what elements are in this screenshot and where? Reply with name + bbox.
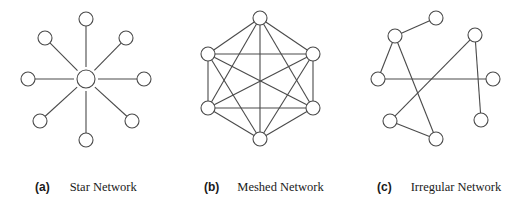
network-node <box>306 101 320 115</box>
network-node <box>383 114 397 128</box>
network-node <box>125 114 139 128</box>
network-node <box>137 72 151 86</box>
caption-text-star: Star Network <box>70 177 137 197</box>
network-edge <box>214 112 254 136</box>
caption-text-irregular: Irregular Network <box>411 177 502 197</box>
network-node <box>486 72 500 86</box>
network-edge <box>397 124 430 137</box>
network-edge <box>381 43 393 73</box>
network-node <box>201 101 215 115</box>
hub-node <box>77 70 95 88</box>
network-edge <box>50 43 78 71</box>
network-edge <box>395 40 470 116</box>
network-node <box>253 132 267 146</box>
network-node <box>79 133 93 147</box>
network-node <box>468 28 482 42</box>
caption-meshed-network: (b) Meshed Network <box>204 176 324 196</box>
network-edge <box>214 22 254 50</box>
irregular-network-graph <box>371 11 500 146</box>
caption-tag-b: (b) <box>204 177 219 197</box>
network-edge <box>95 87 127 116</box>
caption-irregular-network: (c) Irregular Network <box>377 176 501 196</box>
network-edge <box>94 43 121 70</box>
network-node <box>119 31 133 45</box>
network-node <box>388 29 402 43</box>
network-node <box>371 72 385 86</box>
network-node <box>429 11 443 25</box>
network-edge <box>401 21 429 33</box>
caption-tag-a: (a) <box>35 177 50 197</box>
caption-star-network: (a) Star Network <box>35 176 137 196</box>
network-node <box>33 114 47 128</box>
network-node <box>429 132 443 146</box>
caption-tag-c: (c) <box>377 177 392 197</box>
network-edge <box>266 112 307 136</box>
network-edge <box>266 22 307 50</box>
network-node <box>38 31 52 45</box>
caption-text-meshed: Meshed Network <box>237 177 323 197</box>
network-node <box>79 12 93 26</box>
star-network-graph <box>21 12 151 147</box>
network-node <box>201 47 215 61</box>
network-edge <box>45 87 77 116</box>
meshed-network-graph <box>201 11 320 146</box>
network-node <box>474 113 488 127</box>
network-node <box>253 11 267 25</box>
network-node <box>306 47 320 61</box>
network-diagrams <box>0 0 516 170</box>
network-edge <box>264 60 310 133</box>
network-edge <box>475 42 480 113</box>
network-edge <box>212 60 257 133</box>
network-node <box>21 72 35 86</box>
network-edge <box>398 43 434 133</box>
